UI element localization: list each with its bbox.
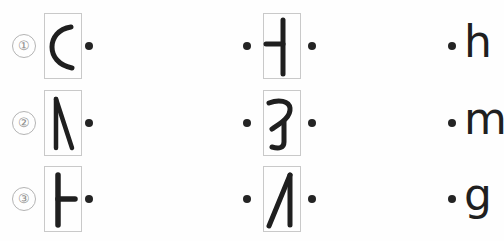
- row-letter-3: g: [464, 162, 492, 228]
- slanted-caret-stroke-icon: [257, 163, 309, 237]
- glyph-box-row1-col2[interactable]: [263, 13, 301, 79]
- row-index-3: ③: [12, 187, 36, 211]
- separator-dot: [448, 195, 456, 203]
- row-letter-2: m: [464, 86, 504, 152]
- separator-dot: [243, 42, 251, 50]
- vertical-bar-with-right-tick-stroke-icon: [38, 163, 90, 237]
- glyph-box-row3-col1[interactable]: [44, 166, 82, 232]
- separator-dot: [243, 195, 251, 203]
- hooked-angle-stroke-icon: [257, 87, 309, 161]
- glyph-row: ② m: [0, 84, 504, 161]
- separator-dot: [85, 119, 93, 127]
- glyph-box-row2-col2[interactable]: [263, 90, 301, 156]
- separator-dot: [308, 119, 316, 127]
- glyph-box-row2-col1[interactable]: [44, 90, 82, 156]
- glyph-row: ① h: [0, 7, 504, 84]
- separator-dot: [85, 195, 93, 203]
- row-index-1: ①: [12, 34, 36, 58]
- separator-dot: [243, 119, 251, 127]
- separator-dot: [308, 42, 316, 50]
- vertical-bar-with-left-tick-stroke-icon: [257, 10, 309, 84]
- row-index-2: ②: [12, 111, 36, 135]
- row-letter-1: h: [464, 9, 492, 75]
- separator-dot: [85, 42, 93, 50]
- glyph-box-row1-col1[interactable]: [44, 13, 82, 79]
- separator-dot: [448, 42, 456, 50]
- c-curve-stroke-icon: [38, 10, 90, 84]
- inverted-v-stroke-icon: [38, 87, 90, 161]
- glyph-box-row3-col2[interactable]: [263, 166, 301, 232]
- separator-dot: [308, 195, 316, 203]
- glyph-row: ③ g: [0, 160, 504, 237]
- separator-dot: [448, 119, 456, 127]
- glyph-sheet: ① h ②: [0, 0, 504, 241]
